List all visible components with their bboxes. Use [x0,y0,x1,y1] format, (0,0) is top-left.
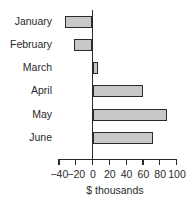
bar-february [74,39,92,51]
x-axis-label: $ thousands [86,184,143,196]
x-tick [159,159,160,165]
bar-june [93,132,153,144]
x-tick [109,159,110,165]
x-tick [75,159,76,165]
category-label: February [10,38,52,50]
category-label: March [23,61,52,73]
x-tick [92,159,93,165]
bar-march [93,62,98,74]
bar-may [93,109,167,121]
x-tick-label: 40 [121,168,133,180]
x-tick-label: 100 [168,168,186,180]
category-label: January [15,15,52,27]
x-tick [126,159,127,165]
category-label: May [32,108,52,120]
category-label: April [31,84,52,96]
category-label: June [29,131,52,143]
x-tick [176,159,177,165]
x-tick-label: 20 [104,168,116,180]
bar-april [93,85,143,97]
x-tick [142,159,143,165]
bar-january [65,16,92,28]
bar-chart: JanuaryFebruaryMarchAprilMayJune −40−200… [0,0,195,209]
x-tick-label: −20 [67,168,85,180]
x-tick-label: 0 [90,168,96,180]
x-tick-label: 60 [138,168,150,180]
x-tick-label: 80 [154,168,166,180]
x-tick [58,159,59,165]
x-tick-label: −40 [50,168,68,180]
